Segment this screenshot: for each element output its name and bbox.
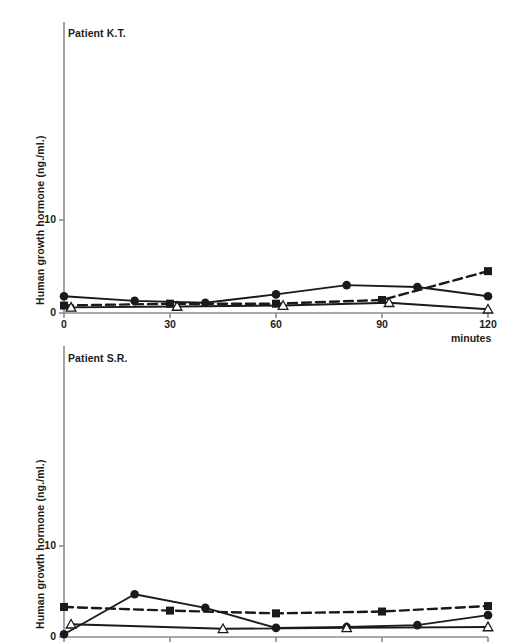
marker-square bbox=[378, 608, 386, 616]
chart-2-plot-area bbox=[0, 322, 527, 642]
chart-2-svg bbox=[0, 322, 527, 642]
marker-circle bbox=[484, 292, 493, 301]
marker-square bbox=[166, 607, 174, 615]
marker-square bbox=[484, 602, 492, 610]
marker-square bbox=[484, 267, 492, 275]
marker-circle bbox=[60, 292, 69, 301]
chart-panel-patient-kt: Patient K.T. Human growth hormone (ng./m… bbox=[0, 0, 527, 348]
marker-circle bbox=[60, 630, 69, 639]
marker-circle bbox=[342, 281, 351, 290]
marker-circle bbox=[130, 590, 139, 599]
marker-circle bbox=[484, 611, 493, 620]
chart-1-plot-area bbox=[0, 0, 527, 348]
chart-1-svg bbox=[0, 0, 527, 348]
marker-square bbox=[272, 609, 280, 617]
chart-panel-patient-sr: Patient S.R. Human growth hormone (ng./m… bbox=[0, 322, 527, 642]
marker-square bbox=[60, 302, 68, 310]
marker-square bbox=[60, 603, 68, 611]
marker-circle bbox=[272, 290, 281, 299]
